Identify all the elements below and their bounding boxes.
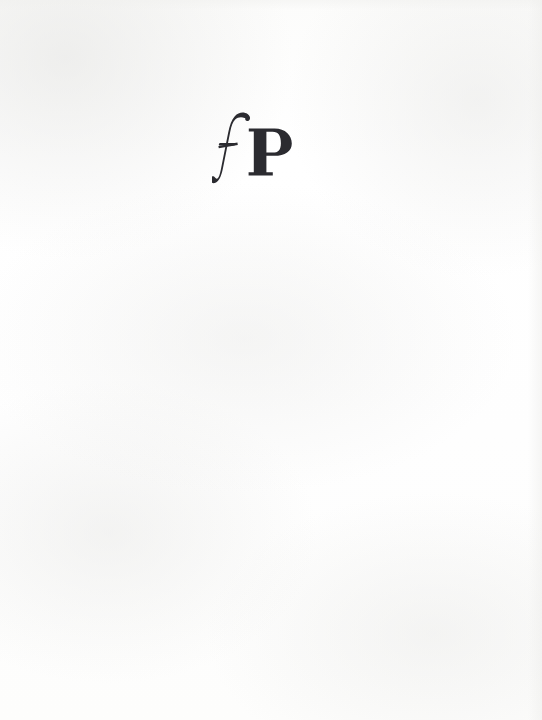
letter-f-glyph <box>212 112 250 183</box>
page-edge-top <box>0 0 542 10</box>
colophon-glyphs <box>212 112 292 183</box>
book-page: fP <box>0 0 542 720</box>
letter-p-glyph <box>249 128 292 175</box>
page-edge-right <box>528 0 542 720</box>
paper-texture <box>0 0 542 720</box>
publisher-colophon-mark: fP <box>212 110 304 190</box>
